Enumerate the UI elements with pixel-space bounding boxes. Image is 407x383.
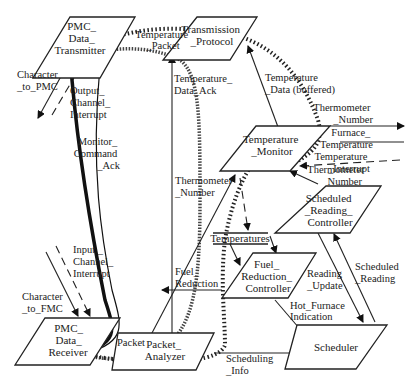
label-thermometer-number-out: Thermometer _Number (313, 102, 373, 125)
label-character-to-pmc: Character _to_PMC (16, 69, 60, 92)
label-character-to-fmc: Character _to_FMC (21, 291, 65, 314)
label-reading-update: Reading _Update (306, 268, 345, 291)
flow-temps-to-frc-1 (230, 244, 240, 265)
label-hot-furnace-indication: Hot_Furnace Indication (290, 300, 347, 322)
label-scheduled-reading-controller: Scheduled _Reading_ Controller (304, 192, 355, 228)
flow-thermometer-number-mid (142, 175, 235, 352)
label-temperatures-store: Temperatures (210, 232, 270, 244)
label-scheduling-info: Scheduling _Info (225, 353, 276, 376)
label-furnace-temperature: Furnace_ Temperature (320, 127, 373, 150)
label-temperature-data-buffered: Temperature _Data (buffered) (264, 72, 336, 96)
label-scheduled-reading: Scheduled _Reading (354, 261, 401, 284)
label-scheduler: Scheduler (314, 341, 358, 353)
label-fuel-reduction: Fuel_ Reduction (175, 266, 219, 289)
label-packet: Packet (117, 337, 145, 348)
flow-temps-to-frc-2 (270, 236, 276, 253)
label-temperature-data-ack: Temperature_ Data_Ack (174, 73, 235, 96)
diagram-canvas: PMC_ Data_ Transmitter Transmission _Pro… (0, 0, 407, 383)
label-output-channel-interrupt: Output_ Channel_ Interrupt (70, 85, 113, 120)
label-packet-analyzer: Packet_ Analyzer (145, 338, 186, 362)
flow-monitor-to-store (240, 178, 248, 230)
label-thermometer-number-mid: Thermometer _Number (174, 175, 235, 198)
label-temperature-monitor: Temperature _Monitor (243, 133, 301, 157)
label-input-channel-interrupt: Input _ Channel_ Interrupt (73, 244, 116, 279)
